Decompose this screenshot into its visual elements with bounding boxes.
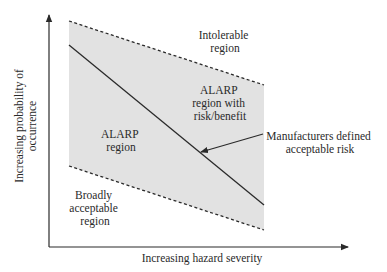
- intolerable-region-label: Intolerable region: [199, 29, 252, 55]
- y-axis-label-line2: occurrence: [26, 101, 38, 151]
- broadly-acceptable-region-label: Broadly acceptable region: [69, 189, 120, 228]
- risk-diagram: Intolerable region ALARP region with ris…: [0, 0, 387, 272]
- y-axis-label-line1: Increasing probability of: [13, 69, 26, 183]
- x-axis-label: Increasing hazard severity: [142, 252, 263, 265]
- acceptable-risk-annotation: Manufacturers defined acceptable risk: [266, 130, 373, 156]
- alarp-left-region-label: ALARP region: [101, 128, 141, 154]
- alarp-right-region-label: ALARP region with risk/benefit: [192, 84, 248, 122]
